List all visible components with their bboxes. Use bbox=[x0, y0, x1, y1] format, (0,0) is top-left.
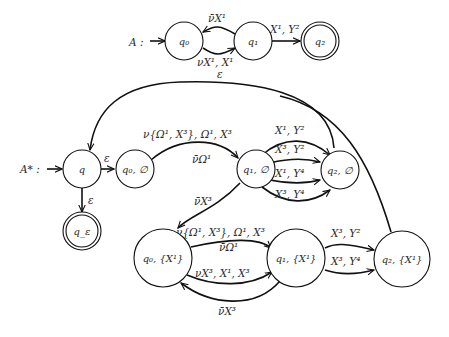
state-label: q bbox=[79, 164, 85, 175]
edge-label: X³, Y² bbox=[274, 143, 305, 155]
edge-label: ε bbox=[88, 194, 94, 206]
state-label: q₀ bbox=[179, 36, 189, 47]
edge-q1x-q2x bbox=[325, 244, 374, 250]
automaton-astar-name: A* : bbox=[19, 163, 40, 175]
edge-q1-q0 bbox=[203, 27, 235, 34]
edge-label: νX¹, X¹ bbox=[197, 56, 233, 68]
state-label: q₁ bbox=[248, 36, 258, 47]
state-label: q_ε bbox=[74, 226, 91, 238]
edge-label: ε bbox=[217, 68, 223, 80]
edge-label-bottom: ν̄Ω¹ bbox=[219, 241, 238, 253]
state-label: q₂ bbox=[315, 36, 325, 47]
state-label: q₂, {X¹} bbox=[382, 254, 423, 265]
edge-label: ν̄X³ bbox=[218, 305, 236, 317]
edge-label-top: ν{Ω¹, X³}, Ω¹, X³ bbox=[143, 128, 232, 141]
edge-label-bottom: ν̄Ω¹ bbox=[192, 153, 211, 165]
state-label: q₀, ∅ bbox=[122, 164, 149, 175]
edge-label: X¹, Y⁴ bbox=[274, 167, 305, 179]
state-label: q₁, {X¹} bbox=[276, 253, 317, 264]
edge-label: ν̄X¹ bbox=[208, 12, 226, 24]
edge-label: X³, Y⁴ bbox=[274, 188, 305, 200]
automaton-a: A : ν̄X¹ νX¹, X¹ X¹, Y² q₀ q₁ q₂ bbox=[128, 12, 339, 68]
edge-q1e-q2e bbox=[270, 180, 320, 183]
edge-label: X¹, Y² bbox=[269, 23, 300, 35]
edge-label: X³, Y² bbox=[330, 227, 361, 239]
edge-label-top: ν{Ω¹, X³}, Ω¹, X³ bbox=[176, 226, 265, 239]
automata-diagram: A : ν̄X¹ νX¹, X¹ X¹, Y² q₀ q₁ q₂ A* : ε … bbox=[0, 0, 449, 337]
edge-label: X¹, Y² bbox=[274, 124, 305, 136]
state-label: q₀, {X¹} bbox=[143, 253, 184, 264]
state-label: q₂, ∅ bbox=[327, 165, 354, 176]
automaton-a-star: A* : ε ε ε ν{Ω¹, X³}, Ω¹, X³ ν̄Ω¹ X¹, Y²… bbox=[19, 68, 430, 317]
edge-label: ν̄X³ bbox=[194, 195, 212, 207]
edge-label: ε bbox=[104, 152, 110, 164]
edge-label: νX³, X¹, X³ bbox=[195, 267, 250, 279]
edge-q0-q1 bbox=[203, 48, 235, 54]
edge-q1e-q2e bbox=[270, 159, 320, 163]
state-label: q₁, ∅ bbox=[243, 164, 270, 175]
edge-q1x-q2x bbox=[325, 270, 374, 274]
edge-label: X³, Y⁴ bbox=[330, 255, 361, 267]
automaton-a-name: A : bbox=[128, 36, 143, 48]
